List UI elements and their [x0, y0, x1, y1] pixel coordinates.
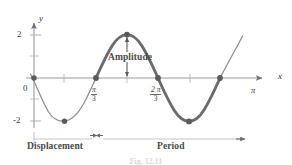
point-zero-2pi3: [155, 75, 161, 81]
x-axis-label: x: [278, 72, 282, 81]
x-tick-label-pi: π: [251, 86, 255, 95]
point-zero-pi3: [93, 75, 99, 81]
amplitude-label: Amplitude: [108, 53, 152, 63]
y-tick-label-0: 0: [23, 84, 28, 93]
point-min-left: [62, 119, 67, 124]
fraction-denominator: 3: [91, 95, 97, 103]
point-max: [124, 32, 130, 38]
point-origin: [31, 75, 36, 80]
x-tick-label-2pi-over-3: 2 π 3: [150, 86, 161, 104]
curve-thin-tail: [220, 36, 243, 78]
y-axis-label: y: [39, 14, 43, 23]
displacement-label: Displacement: [27, 142, 83, 152]
x-tick-label-pi-over-3: π 3: [91, 86, 97, 104]
figure-container: y x 2 0 -2 π 3 2 π 3 π Amplitude Displac…: [0, 0, 292, 165]
fraction-pi-3: π 3: [91, 86, 97, 103]
fraction-denominator: 3: [150, 95, 161, 103]
figure-caption: Fig. 12.11: [0, 157, 292, 165]
curve-thin-left: [31, 74, 96, 121]
period-label: Period: [157, 142, 185, 152]
point-zero-pi: [217, 75, 223, 81]
y-tick-label-2: 2: [17, 30, 22, 39]
point-min-right: [186, 119, 192, 125]
fraction-2pi-3: 2 π 3: [150, 86, 161, 103]
y-tick-label-minus2: -2: [13, 116, 21, 125]
